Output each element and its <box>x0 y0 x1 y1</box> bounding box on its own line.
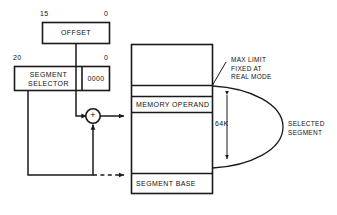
segmented-addressing-diagram: 15 0 20 0 OFFSET SEGMENT SELECTOR 0000 +… <box>0 0 337 215</box>
max-limit-leader-line <box>212 62 226 86</box>
selected-segment-annotation: SELECTED SEGMENT <box>288 120 325 137</box>
offset-register-box <box>43 23 110 44</box>
segment-msb-label: 20 <box>13 54 21 61</box>
segment-register-box <box>15 67 110 91</box>
selected-segment-brace <box>213 86 284 168</box>
diagram-vector-layer <box>0 0 337 215</box>
max-limit-annotation: MAX LIMIT FIXED AT REAL MODE <box>231 56 272 82</box>
memory-column-box <box>132 45 213 194</box>
offset-msb-label: 15 <box>40 10 48 17</box>
segment-size-label: 64K <box>215 120 228 127</box>
segment-selector-wire <box>28 91 93 176</box>
segment-lsb-label: 0 <box>104 54 108 61</box>
offset-lsb-label: 0 <box>104 10 108 17</box>
adder-circle <box>86 109 100 123</box>
